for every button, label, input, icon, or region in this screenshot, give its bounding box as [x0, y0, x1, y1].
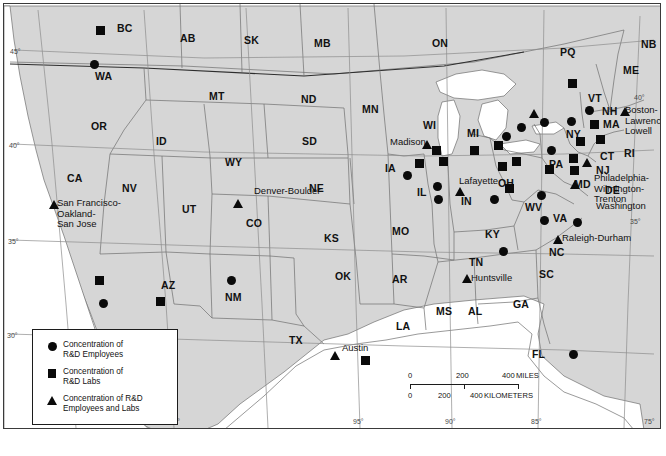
grat-label-lat-30: 30° — [7, 332, 18, 339]
state-label-ri: RI — [624, 147, 635, 159]
legend-label-both: Concentration of R&D Employees and Labs — [63, 394, 143, 414]
state-label-nm: NM — [225, 291, 242, 303]
legend-label-employees: Concentration of R&D Employees — [63, 340, 123, 360]
city-label-lafayette: Lafayette — [459, 176, 498, 187]
map-marker-circle — [585, 106, 594, 115]
map-marker-square — [569, 154, 578, 163]
city-label-raleigh-durham: Raleigh-Durham — [562, 233, 631, 244]
state-label-wy: WY — [225, 156, 242, 168]
state-label-ar: AR — [392, 273, 408, 285]
grat-label-lat-35: 35° — [8, 238, 19, 245]
map-marker-circle — [433, 182, 442, 191]
map-marker-triangle — [462, 274, 472, 283]
state-label-ca: CA — [67, 172, 83, 184]
map-marker-circle — [434, 195, 443, 204]
state-label-ia: IA — [385, 162, 396, 174]
legend-label-labs: Concentration of R&D Labs — [63, 367, 123, 387]
map-marker-square — [505, 184, 514, 193]
state-label-mn: MN — [362, 103, 379, 115]
city-label-boston: Boston- Lawrence- Lowell — [625, 105, 661, 137]
map-marker-circle — [502, 132, 511, 141]
state-label-ma: MA — [603, 118, 620, 130]
grat-label-lon-85: 85° — [531, 418, 542, 425]
grat-label-lon-95: 95° — [353, 418, 364, 425]
state-label-nd: ND — [301, 93, 317, 105]
map-marker-square — [545, 165, 554, 174]
legend-entry-labs: Concentration of R&D Labs — [41, 367, 123, 387]
scale-km-0: 0 — [408, 391, 412, 400]
state-label-bc: BC — [117, 22, 133, 34]
map-marker-circle — [499, 247, 508, 256]
city-label-san-francisco: San Francisco- Oakland- San Jose — [57, 198, 121, 230]
map-marker-triangle — [553, 235, 563, 244]
state-label-ms: MS — [436, 305, 452, 317]
map-marker-triangle — [422, 140, 432, 149]
grat-label-lon-90: 90° — [445, 418, 456, 425]
legend-entry-employees: Concentration of R&D Employees — [41, 340, 123, 360]
state-label-wi: WI — [423, 119, 436, 131]
state-label-pq: PQ — [560, 46, 576, 58]
state-label-sc: SC — [539, 268, 554, 280]
map-marker-square — [596, 135, 605, 144]
map-marker-square — [568, 79, 577, 88]
state-label-sk: SK — [244, 34, 259, 46]
map-marker-circle — [517, 123, 526, 132]
state-label-mi: MI — [467, 127, 479, 139]
map-marker-triangle — [233, 199, 243, 208]
map-marker-triangle — [330, 351, 340, 360]
state-label-ga: GA — [513, 298, 529, 310]
city-label-denver-boulder: Denver-Boulder — [254, 186, 321, 197]
grat-label-lat-45: 45° — [10, 48, 21, 55]
grat-label-right-40: 40° — [634, 94, 645, 101]
map-marker-square — [415, 159, 424, 168]
map-marker-circle — [540, 216, 549, 225]
map-marker-circle — [547, 146, 556, 155]
map-marker-square — [498, 162, 507, 171]
state-label-nv: NV — [122, 182, 137, 194]
state-label-fl: FL — [532, 348, 545, 360]
map-figure: 45° 40° 35° 30° 120° 115° 95° 90° 85° 75… — [0, 0, 666, 456]
map-marker-circle — [90, 60, 99, 69]
map-marker-circle — [537, 191, 546, 200]
map-marker-circle — [99, 299, 108, 308]
state-label-me: ME — [623, 64, 639, 76]
state-label-mo: MO — [392, 225, 409, 237]
map-marker-triangle — [529, 109, 539, 118]
triangle-icon — [41, 394, 63, 405]
scale-km-unit: KILOMETERS — [484, 391, 533, 400]
map-marker-triangle — [570, 180, 580, 189]
state-label-co: CO — [246, 217, 262, 229]
grat-label-lon-75: 75° — [644, 418, 655, 425]
map-marker-circle — [540, 118, 549, 127]
map-marker-square — [95, 276, 104, 285]
map-marker-square — [96, 26, 105, 35]
state-label-ut: UT — [182, 203, 196, 215]
state-label-ct: CT — [600, 150, 614, 162]
map-marker-circle — [403, 171, 412, 180]
state-label-wv: WV — [525, 201, 542, 213]
city-label-washington: Washington — [596, 201, 646, 212]
scale-tick-mid — [464, 384, 465, 389]
scale-miles-200: 200 — [456, 371, 469, 380]
map-marker-circle — [573, 218, 582, 227]
map-frame: 45° 40° 35° 30° 120° 115° 95° 90° 85° 75… — [3, 3, 661, 429]
map-marker-circle — [490, 195, 499, 204]
map-marker-square — [361, 356, 370, 365]
map-marker-circle — [569, 350, 578, 359]
state-label-on: ON — [432, 37, 448, 49]
state-label-va: VA — [553, 212, 567, 224]
map-legend: Concentration of R&D Employees Concentra… — [32, 329, 178, 425]
state-label-in: IN — [461, 195, 472, 207]
state-label-il: IL — [417, 186, 427, 198]
grat-label-right-35: 35° — [630, 218, 641, 225]
scale-miles-unit: MILES — [516, 371, 539, 380]
map-marker-square — [570, 166, 579, 175]
map-marker-circle — [567, 117, 576, 126]
scale-miles-400: 400 — [502, 371, 515, 380]
scale-miles-0: 0 — [408, 371, 412, 380]
map-marker-square — [512, 157, 521, 166]
circle-icon — [41, 340, 63, 351]
map-marker-square — [470, 146, 479, 155]
state-label-wa: WA — [95, 70, 112, 82]
state-label-nb: NB — [641, 38, 657, 50]
